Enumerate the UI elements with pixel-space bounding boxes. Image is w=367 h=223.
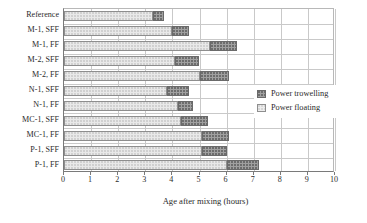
legend-swatch-icon: [257, 90, 266, 98]
x-axis-ticks: 012345678910: [63, 172, 334, 186]
bar-segment-power-trowelling: [172, 26, 188, 36]
x-tick-label: 5: [196, 176, 200, 184]
x-tick-label: 0: [61, 176, 65, 184]
bar-row: [64, 69, 335, 84]
legend-label: Power floating: [271, 104, 320, 112]
x-tick-label: 7: [251, 176, 255, 184]
bar-segment-power-trowelling: [153, 11, 164, 21]
bar-segment-power-floating: [64, 146, 202, 156]
bar-segment-power-floating: [64, 160, 227, 170]
x-tick-label: 9: [305, 176, 309, 184]
bar-row: [64, 39, 335, 54]
x-tick-label: 3: [142, 176, 146, 184]
bar-row: [64, 128, 335, 143]
bar-segment-power-trowelling: [178, 101, 193, 111]
x-tick-label: 6: [224, 176, 228, 184]
x-axis-title-text: Age after mixing (hours): [163, 196, 249, 206]
x-tick-label: 1: [88, 176, 92, 184]
bar-segment-power-trowelling: [175, 56, 199, 66]
bar-segment-power-floating: [64, 116, 181, 126]
y-axis-label: M-1, SFF: [28, 26, 60, 34]
y-axis-label: M-2, FF: [32, 71, 59, 79]
bar-segment-power-trowelling: [167, 86, 189, 96]
bar-row: [64, 24, 335, 39]
y-axis-category-labels: ReferenceM-1, SFFM-1, FFM-2, SFFM-2, FFN…: [0, 8, 59, 172]
bar-segment-power-floating: [64, 101, 178, 111]
legend-item: Power trowelling: [257, 87, 356, 101]
y-axis-label: N-1, SFF: [29, 86, 59, 94]
bar-row: [64, 158, 335, 173]
x-tick-label: 4: [169, 176, 173, 184]
legend-swatch-icon: [257, 104, 266, 112]
bar-segment-power-floating: [64, 71, 200, 81]
bar-segment-power-floating: [64, 56, 175, 66]
bar-segment-power-floating: [64, 41, 210, 51]
bar-segment-power-trowelling: [181, 116, 208, 126]
legend-item: Power floating: [257, 101, 356, 115]
bar-row: [64, 143, 335, 158]
x-tick-label: 10: [330, 176, 338, 184]
bar-segment-power-floating: [64, 86, 167, 96]
bar-segment-power-floating: [64, 131, 202, 141]
x-axis-title: Age after mixing (hours): [0, 196, 367, 206]
y-axis-label: P-1, FF: [35, 161, 59, 169]
bar-chart: ReferenceM-1, SFFM-1, FFM-2, SFFM-2, FFN…: [0, 0, 367, 223]
legend-label: Power trowelling: [271, 90, 328, 98]
y-axis-label: N-1, FF: [33, 101, 59, 109]
bar-segment-power-trowelling: [227, 160, 260, 170]
bar-row: [64, 54, 335, 69]
bar-segment-power-floating: [64, 11, 153, 21]
bar-segment-power-trowelling: [210, 41, 237, 51]
y-axis-label: MC-1, SFF: [22, 116, 59, 124]
bar-row: [64, 9, 335, 24]
y-axis-label: P-1, SFF: [30, 146, 59, 154]
bar-segment-power-trowelling: [200, 71, 230, 81]
bar-segment-power-trowelling: [202, 131, 229, 141]
y-axis-label: M-2, SFF: [28, 56, 60, 64]
y-axis-label: M-1, FF: [32, 41, 59, 49]
y-axis-label: Reference: [26, 11, 59, 19]
y-axis-label: MC-1, FF: [27, 131, 59, 139]
x-tick-label: 8: [278, 176, 282, 184]
chart-legend: Power trowellingPower floating: [254, 85, 358, 118]
x-tick-label: 2: [115, 176, 119, 184]
bar-segment-power-floating: [64, 26, 172, 36]
bar-segment-power-trowelling: [202, 146, 226, 156]
